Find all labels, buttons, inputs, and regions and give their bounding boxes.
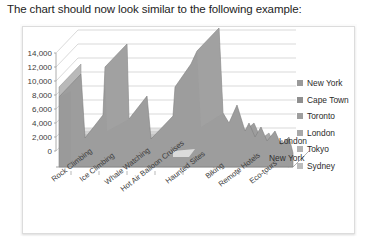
legend-label: Cape Town [307, 95, 349, 105]
legend-swatch-icon [297, 130, 303, 136]
value-axis [54, 53, 56, 151]
ytick-0: 0 [48, 147, 53, 156]
legend-swatch-icon [297, 97, 303, 103]
legend-item-new-york[interactable]: New York [297, 75, 378, 92]
legend-swatch-icon [297, 163, 303, 169]
ytick-6000: 6,000 [32, 105, 53, 114]
ytick-10000: 10,000 [28, 77, 53, 86]
legend-swatch-icon [297, 113, 303, 119]
chart-container[interactable]: 0 2,000 4,000 6,000 8,000 10,000 12,000 … [22, 26, 355, 234]
legend-item-sydney[interactable]: Sydney [297, 158, 378, 175]
legend-swatch-icon [297, 146, 303, 152]
legend-item-cape-town[interactable]: Cape Town [297, 92, 378, 109]
legend-item-toronto[interactable]: Toronto [297, 108, 378, 125]
legend-label: Tokyo [307, 144, 329, 154]
chart-legend[interactable]: New York Cape Town Toronto London Tokyo … [297, 75, 378, 174]
ytick-8000: 8,000 [32, 91, 53, 100]
ytick-4000: 4,000 [32, 119, 53, 128]
legend-swatch-icon [297, 80, 303, 86]
legend-label: London [307, 128, 335, 138]
legend-label: Toronto [307, 111, 335, 121]
ytick-12000: 12,000 [28, 63, 53, 72]
ytick-2000: 2,000 [32, 133, 53, 142]
legend-item-london[interactable]: London [297, 125, 378, 142]
value-axis-labels: 0 2,000 4,000 6,000 8,000 10,000 12,000 … [28, 49, 53, 156]
ytick-14000: 14,000 [28, 49, 53, 58]
legend-label: New York [307, 78, 342, 88]
legend-label: Sydney [307, 161, 335, 171]
legend-item-tokyo[interactable]: Tokyo [297, 141, 378, 158]
instruction-text: The chart should now look similar to the… [7, 3, 302, 15]
